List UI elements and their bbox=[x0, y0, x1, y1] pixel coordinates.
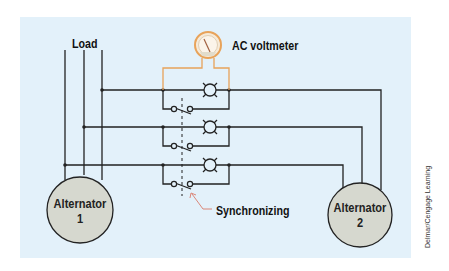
switch-contact bbox=[187, 106, 192, 111]
alternator-2-label: Alternator 2 bbox=[330, 200, 390, 230]
lamp-icon-3 bbox=[203, 158, 217, 172]
phase-wire-1 bbox=[102, 90, 381, 190]
voltmeter-icon bbox=[195, 32, 221, 58]
voltmeter-label: AC voltmeter bbox=[232, 38, 298, 53]
synchronizing-label: Synchronizing bbox=[216, 203, 289, 218]
switch-contact bbox=[171, 143, 176, 148]
switch-contact bbox=[171, 106, 176, 111]
switch-branch-2 bbox=[163, 127, 172, 146]
load-label: Load bbox=[72, 36, 97, 51]
lamp-icon-1 bbox=[203, 83, 217, 97]
phase-wire-2 bbox=[84, 127, 362, 184]
voltmeter-wire bbox=[214, 58, 229, 90]
circuit-diagram bbox=[0, 0, 449, 271]
alternator-1-label: Alternator 1 bbox=[50, 196, 110, 226]
switch-contact bbox=[171, 181, 176, 186]
phase-wire-3 bbox=[65, 165, 343, 190]
synchronizing-arrow bbox=[190, 193, 212, 209]
voltmeter-wire bbox=[163, 58, 202, 90]
lamp-icon-2 bbox=[203, 120, 217, 134]
switch-contact bbox=[187, 181, 192, 186]
switch-branch-3 bbox=[163, 165, 172, 184]
switch-branch-1 bbox=[163, 90, 172, 109]
lamp-icons bbox=[203, 83, 217, 172]
credit-text: Delmar/Cengage Learning bbox=[424, 166, 431, 248]
switch-contact bbox=[187, 143, 192, 148]
